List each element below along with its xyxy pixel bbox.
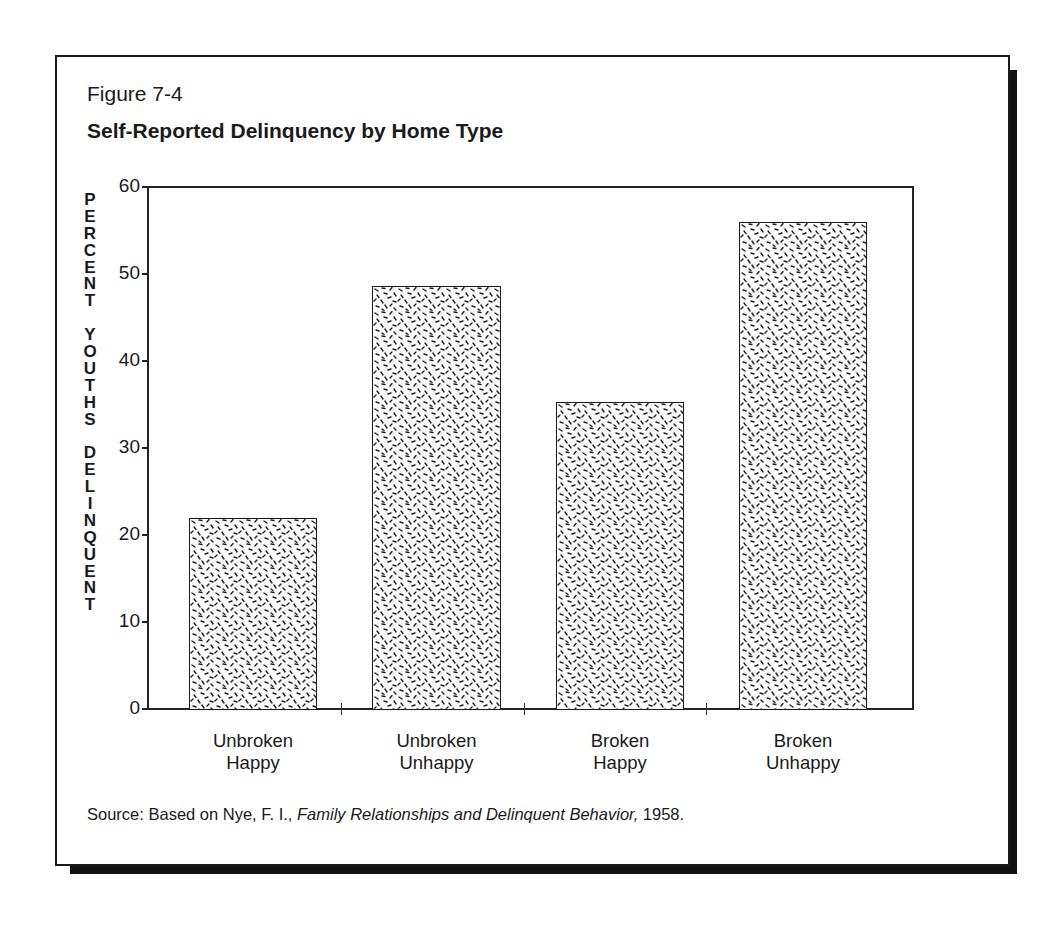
x-category-label: UnbrokenUnhappy	[347, 730, 527, 774]
x-category-label: BrokenUnhappy	[713, 730, 893, 774]
x-category-label-line: Unbroken	[163, 730, 343, 752]
x-category-label-line: Happy	[530, 752, 710, 774]
y-tick-label: 10	[100, 610, 140, 632]
x-category-label-line: Broken	[530, 730, 710, 752]
x-category-separator-tick	[341, 703, 342, 715]
y-tick-label: 30	[100, 436, 140, 458]
y-axis-label: PERCENT YOUTHS DELINQUENT	[80, 192, 100, 614]
y-tick-label: 50	[100, 262, 140, 284]
bar-broken-unhappy	[739, 222, 867, 710]
source-note: Source: Based on Nye, F. I., Family Rela…	[87, 805, 684, 824]
chart-title: Self-Reported Delinquency by Home Type	[87, 119, 503, 143]
y-axis-line	[147, 186, 149, 710]
bar-unbroken-unhappy	[372, 286, 501, 710]
bar-broken-happy	[556, 402, 684, 710]
y-tick-label: 40	[100, 349, 140, 371]
x-category-label: BrokenHappy	[530, 730, 710, 774]
x-category-label: UnbrokenHappy	[163, 730, 343, 774]
y-tick-label: 20	[100, 523, 140, 545]
frame-shadow-bottom	[70, 866, 1017, 874]
plot-border-top	[148, 186, 914, 188]
frame-shadow-right	[1010, 70, 1017, 874]
x-category-separator-tick	[706, 703, 707, 715]
source-book-title: Family Relationships and Delinquent Beha…	[297, 805, 638, 823]
y-axis-label-letter: T	[80, 597, 100, 614]
x-category-label-line: Unbroken	[347, 730, 527, 752]
x-category-label-line: Happy	[163, 752, 343, 774]
x-category-separator-tick	[524, 703, 525, 715]
figure-number: Figure 7-4	[87, 82, 183, 106]
x-category-label-line: Broken	[713, 730, 893, 752]
plot-border-right	[912, 186, 914, 710]
x-category-label-line: Unhappy	[713, 752, 893, 774]
x-category-label-line: Unhappy	[347, 752, 527, 774]
source-suffix: 1958.	[638, 805, 684, 823]
source-prefix: Source: Based on Nye, F. I.,	[87, 805, 297, 823]
y-tick-label: 0	[100, 697, 140, 719]
bar-unbroken-happy	[189, 518, 317, 710]
y-tick-label: 60	[100, 175, 140, 197]
